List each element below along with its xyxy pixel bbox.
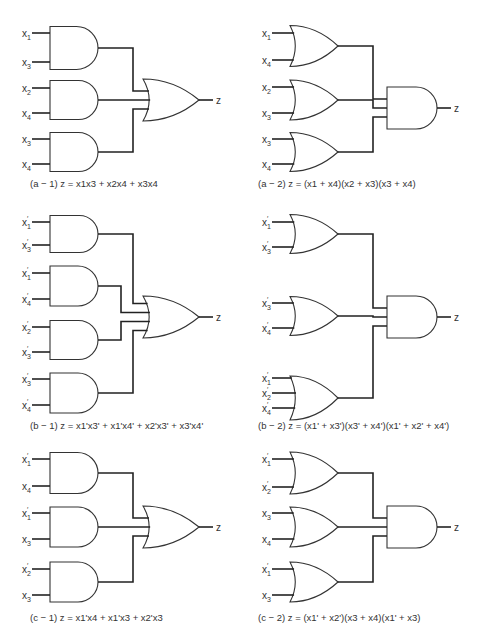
input-label: x3′ — [262, 240, 271, 255]
input-label: x3′ — [22, 345, 31, 360]
and-gate-output — [387, 87, 437, 129]
circuit-a-2: x1x4x2x3x3x4z(a − 2) z = (x1 + x4)(x2 + … — [258, 26, 459, 190]
input-label: x4 — [262, 159, 271, 172]
input-label: x1 — [22, 28, 31, 41]
and-gate — [50, 81, 98, 120]
input-label: x4 — [22, 159, 31, 172]
and-gate-output — [387, 296, 437, 338]
circuit-c-2: x1′x2′x3x4x1′x3z(c − 2) z = (x1' + x2')(… — [258, 452, 459, 624]
or-gate — [290, 215, 338, 254]
input-label: x1′ — [262, 452, 271, 467]
input-label: x1′ — [22, 266, 31, 281]
input-label: x3 — [22, 57, 31, 70]
caption-b-1: (b − 1) z = x1'x3' + x1'x4' + x2'x3' + x… — [30, 420, 203, 431]
output-label: z — [216, 312, 221, 323]
output-label: z — [216, 95, 221, 106]
and-gate — [50, 27, 98, 70]
caption-a-2: (a − 2) z = (x1 + x4)(x2 + x3)(x3 + x4) — [258, 178, 416, 189]
input-label: x4 — [22, 108, 31, 121]
or-gate-output — [143, 296, 199, 338]
input-label: x4 — [262, 534, 271, 547]
input-label: x2 — [22, 83, 31, 96]
and-gate — [50, 266, 98, 306]
and-gate — [50, 321, 98, 360]
input-label: x3′ — [22, 372, 31, 387]
input-label: x3′ — [262, 296, 271, 311]
and-gate — [50, 216, 98, 253]
caption-c-1: (c − 1) z = x1'x4 + x1'x3 + x2'x3 — [30, 612, 163, 623]
input-label: x3 — [262, 108, 271, 121]
input-label: x3 — [22, 590, 31, 603]
logic-circuit-figure: x1x3x2x4x3x4z(a − 1) z = x1x3 + x2x4 + x… — [0, 0, 481, 643]
input-label: x2′ — [22, 562, 31, 577]
input-label: x2 — [262, 82, 271, 95]
or-gate — [290, 133, 338, 172]
input-label: x1′ — [262, 371, 271, 386]
circuit-b-2: x1′x3′x3′x4′x1′x2′x4′z(b − 2) z = (x1' +… — [258, 215, 459, 432]
input-label: x4′ — [262, 321, 271, 336]
or-gate — [290, 26, 338, 67]
input-label: x3 — [262, 134, 271, 147]
input-label: x3 — [262, 590, 271, 603]
or-gate — [290, 80, 338, 120]
input-label: x2′ — [262, 386, 271, 401]
input-label: x1 — [262, 28, 271, 41]
caption-c-2: (c − 2) z = (x1' + x2')(x3 + x4)(x1' + x… — [258, 612, 421, 623]
input-label: x3′ — [22, 238, 31, 253]
input-label: x4′ — [22, 292, 31, 307]
or-gate-output — [143, 506, 199, 548]
input-label: x4′ — [22, 398, 31, 413]
input-label: x4 — [262, 55, 271, 68]
input-label: x3 — [262, 508, 271, 521]
input-label: x1′ — [22, 452, 31, 467]
input-label: x3 — [22, 134, 31, 147]
circuit-b-1: x1′x3′x1′x4′x2′x3′x3′x4′z(b − 1) z = x1'… — [22, 215, 221, 432]
input-label: x2′ — [262, 480, 271, 495]
or-gate — [290, 452, 338, 494]
input-label: x1′ — [22, 506, 31, 521]
and-gate-output — [387, 506, 437, 548]
input-label: x4 — [22, 481, 31, 494]
caption-a-1: (a − 1) z = x1x3 + x2x4 + x3x4 — [30, 178, 158, 189]
input-label: x3 — [22, 534, 31, 547]
circuit-a-1: x1x3x2x4x3x4z(a − 1) z = x1x3 + x2x4 + x… — [22, 27, 221, 190]
and-gate — [50, 453, 98, 494]
or-gate — [290, 297, 338, 336]
output-label: z — [454, 103, 459, 114]
caption-b-2: (b − 2) z = (x1' + x3')(x3' + x4')(x1' +… — [258, 420, 449, 431]
output-label: z — [454, 312, 459, 323]
input-label: x2′ — [22, 320, 31, 335]
input-label: x4′ — [262, 401, 271, 416]
or-gate — [290, 507, 338, 547]
output-label: z — [454, 522, 459, 533]
circuit-c-1: x1′x4x1′x3x2′x3z(c − 1) z = x1'x4 + x1'x… — [22, 452, 221, 624]
and-gate — [50, 507, 98, 547]
input-label: x1′ — [262, 215, 271, 230]
input-label: x1′ — [262, 562, 271, 577]
or-gate-output — [143, 79, 199, 121]
input-label: x1′ — [22, 215, 31, 230]
or-gate — [290, 562, 338, 602]
output-label: z — [216, 522, 221, 533]
and-gate — [50, 373, 98, 413]
and-gate — [50, 133, 98, 172]
and-gate — [50, 562, 98, 602]
or-gate — [290, 376, 338, 420]
